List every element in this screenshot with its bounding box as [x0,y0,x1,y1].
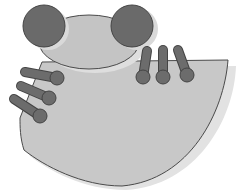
right-eye-icon [111,5,153,47]
right-toes [136,50,194,84]
left-eye-icon [23,5,65,47]
